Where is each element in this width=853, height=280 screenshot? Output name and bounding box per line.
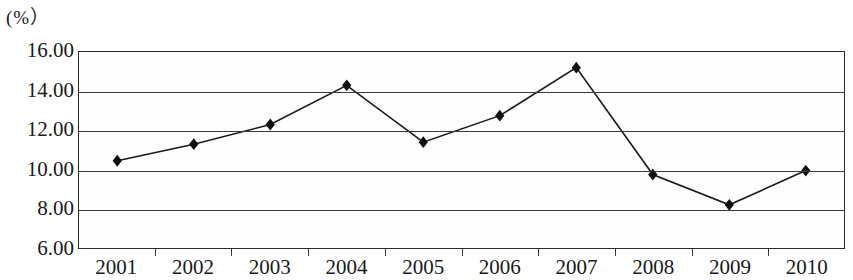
series-polyline: [117, 68, 805, 205]
data-point-marker: [342, 79, 351, 91]
x-axis-tick-label: 2002: [172, 255, 214, 279]
y-axis-tick-label: 10.00: [2, 159, 74, 180]
x-axis-tick-label: 2001: [95, 255, 137, 279]
x-axis-tick-label: 2005: [402, 255, 444, 279]
line-chart: (%） 16.0014.0012.0010.008.006.00 2001200…: [0, 0, 853, 280]
y-axis-tick-labels: 16.0014.0012.0010.008.006.00: [0, 0, 74, 280]
gridline: [79, 171, 844, 172]
x-axis-tick-labels: 2001200220032004200520062007200820092010: [78, 255, 845, 280]
x-axis-tick-label: 2010: [786, 255, 828, 279]
data-point-marker: [725, 199, 734, 211]
y-axis-tick-label: 14.00: [2, 80, 74, 101]
x-axis-tick-label: 2004: [325, 255, 367, 279]
data-point-marker: [266, 119, 275, 131]
gridline: [79, 92, 844, 93]
x-axis-tick-label: 2007: [556, 255, 598, 279]
series-line-and-markers: [79, 52, 844, 248]
data-point-marker: [419, 136, 428, 148]
x-axis-tick-label: 2008: [632, 255, 674, 279]
x-axis-tick-label: 2003: [249, 255, 291, 279]
series-markers: [113, 62, 811, 211]
gridline: [79, 210, 844, 211]
plot-area: [78, 51, 845, 249]
data-point-marker: [495, 110, 504, 122]
data-point-marker: [189, 138, 198, 150]
x-axis-tick-label: 2006: [479, 255, 521, 279]
y-axis-tick-label: 6.00: [2, 238, 74, 259]
y-axis-tick-label: 16.00: [2, 40, 74, 61]
y-axis-tick-label: 12.00: [2, 119, 74, 140]
x-axis-tick-label: 2009: [709, 255, 751, 279]
gridline: [79, 131, 844, 132]
data-point-marker: [113, 155, 122, 167]
y-axis-tick-label: 8.00: [2, 198, 74, 219]
